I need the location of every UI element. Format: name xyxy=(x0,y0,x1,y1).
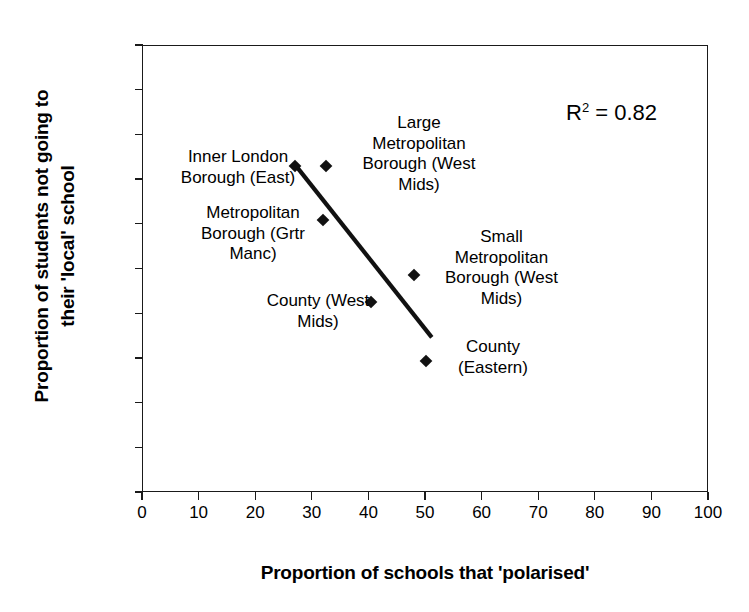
x-tick-label: 90 xyxy=(621,503,681,523)
x-tick-label: 0 xyxy=(112,503,172,523)
x-tick-label: 10 xyxy=(169,503,229,523)
x-tick-label: 70 xyxy=(508,503,568,523)
x-tick-mark xyxy=(198,492,199,500)
x-tick-label: 50 xyxy=(395,503,455,523)
x-tick-label: 60 xyxy=(452,503,512,523)
point-label-metropolitan-borough-grtr-manc: Metropolitan Borough (Grtr Manc) xyxy=(182,203,324,265)
point-label-county-eastern: County (Eastern) xyxy=(434,337,552,378)
x-tick-mark xyxy=(481,492,482,500)
x-tick-mark xyxy=(651,492,652,500)
x-tick-label: 30 xyxy=(282,503,342,523)
x-tick-mark xyxy=(141,492,142,500)
point-label-county-west-mids: County (West Mids) xyxy=(238,291,398,332)
y-axis-title-line-1: Proportion of students not going to xyxy=(29,90,55,403)
x-tick-mark xyxy=(424,492,425,500)
r-squared-prefix: R xyxy=(566,100,582,125)
x-tick-mark xyxy=(368,492,369,500)
x-tick-mark xyxy=(594,492,595,500)
x-tick-mark xyxy=(255,492,256,500)
y-axis-title-line-2: their 'local' school xyxy=(55,165,81,326)
x-tick-label: 100 xyxy=(678,503,738,523)
x-tick-label: 20 xyxy=(225,503,285,523)
y-axis-title: Proportion of students not going to thei… xyxy=(25,11,85,481)
point-label-large-metropolitan-borough-west-mids: Large Metropolitan Borough (West Mids) xyxy=(343,113,495,196)
x-tick-mark xyxy=(311,492,312,500)
x-tick-label: 40 xyxy=(338,503,398,523)
x-axis-title: Proportion of schools that 'polarised' xyxy=(142,562,708,584)
x-tick-mark xyxy=(538,492,539,500)
x-tick-label: 80 xyxy=(565,503,625,523)
x-tick-mark xyxy=(707,492,708,500)
point-label-inner-london-borough-east: Inner London Borough (East) xyxy=(163,147,313,188)
point-label-small-metropolitan-borough-west-mids: Small Metropolitan Borough (West Mids) xyxy=(424,227,579,310)
r-squared-annotation: R2 = 0.82 xyxy=(566,100,657,126)
r-squared-value: = 0.82 xyxy=(589,100,657,125)
scatter-chart: Proportion of students not going to thei… xyxy=(0,0,749,612)
